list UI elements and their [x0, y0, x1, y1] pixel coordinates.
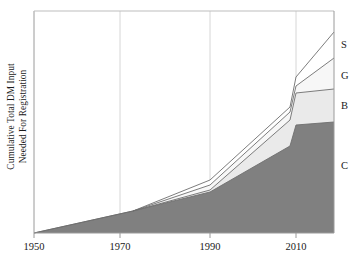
x-tick-labels: 1950 1970 1990 2010 — [24, 241, 307, 252]
x-tick-label-1950: 1950 — [24, 241, 45, 252]
x-tick-label-2010: 2010 — [286, 241, 307, 252]
chart-svg: 1950 1970 1990 2010 S G B C — [0, 0, 352, 262]
x-tick-label-1970: 1970 — [110, 241, 131, 252]
x-tick-marks — [34, 233, 296, 238]
series-label-b: B — [341, 100, 348, 111]
series-inline-labels: S G B C — [341, 39, 349, 171]
series-label-c: C — [341, 160, 348, 171]
series-label-s: S — [341, 39, 347, 50]
chart-container: Cumulative Total DM Input Needed For Reg… — [0, 0, 352, 262]
series-label-g: G — [341, 70, 349, 81]
x-tick-label-1990: 1990 — [200, 241, 221, 252]
